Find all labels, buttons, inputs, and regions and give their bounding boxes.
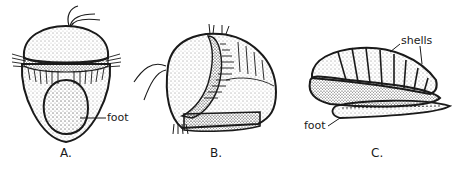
figure-a: foot A.	[0, 0, 150, 169]
foot	[44, 80, 88, 134]
label-foot-c: foot	[304, 119, 326, 132]
cap-dome	[24, 26, 108, 63]
shells-leader	[390, 44, 400, 52]
figure-c: shells foot C.	[290, 0, 458, 169]
figure-a-drawing	[0, 0, 150, 169]
figure-b-drawing	[130, 0, 290, 169]
caption-a: A.	[60, 146, 72, 160]
top-cilia	[209, 24, 229, 34]
figure-b: B.	[130, 0, 290, 169]
foot-leader	[328, 118, 340, 126]
trailing-cilia	[134, 64, 166, 100]
caption-c: C.	[371, 146, 383, 160]
label-foot-a: foot	[107, 111, 129, 124]
apical-cilia	[68, 6, 100, 26]
label-shells: shells	[401, 34, 432, 47]
figure-c-drawing	[290, 0, 458, 169]
caption-b: B.	[210, 146, 222, 160]
